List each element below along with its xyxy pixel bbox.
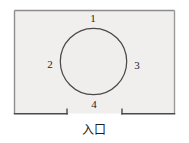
position-label-4: 4 <box>91 98 97 110</box>
center-circle <box>60 28 126 94</box>
entrance-label: 入口 <box>82 123 107 137</box>
position-label-1: 1 <box>90 12 96 24</box>
position-label-3: 3 <box>134 59 140 71</box>
diagram-canvas: 1 2 3 4 入口 <box>0 0 189 143</box>
position-label-2: 2 <box>47 58 53 70</box>
floor-plan-diagram: 1 2 3 4 入口 <box>0 0 189 143</box>
